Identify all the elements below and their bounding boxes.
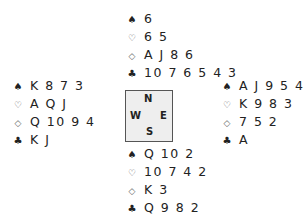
north-hand: ♠6 ♡6 5 ◇A J 8 6 ♣10 7 6 5 4 3 [126, 10, 238, 82]
west-spades: ♠K 8 7 3 [12, 77, 96, 95]
west-diamonds: ◇Q 10 9 4 [12, 113, 96, 131]
east-hearts: ♡K 9 8 3 [221, 95, 305, 113]
spade-icon: ♠ [126, 146, 138, 164]
north-spades: ♠6 [126, 10, 238, 28]
east-spades: ♠A J 9 5 4 [221, 77, 305, 95]
compass-box: N W E S [125, 90, 173, 142]
compass-east: E [160, 110, 167, 121]
club-icon: ♣ [12, 132, 24, 150]
heart-icon: ♡ [126, 164, 138, 182]
spade-icon: ♠ [12, 78, 24, 96]
club-icon: ♣ [126, 65, 138, 83]
west-hand: ♠K 8 7 3 ♡A Q J ◇Q 10 9 4 ♣K J [12, 77, 96, 149]
diamond-icon: ◇ [126, 47, 138, 65]
north-hearts: ♡6 5 [126, 28, 238, 46]
heart-icon: ♡ [221, 96, 233, 114]
spade-icon: ♠ [221, 78, 233, 96]
compass-south: S [146, 126, 153, 137]
south-spades: ♠Q 10 2 [126, 145, 208, 163]
compass-north: N [144, 93, 152, 104]
north-diamonds: ◇A J 8 6 [126, 46, 238, 64]
south-hand: ♠Q 10 2 ♡10 7 4 2 ◇K 3 ♣Q 9 8 2 [126, 145, 208, 217]
south-hearts: ♡10 7 4 2 [126, 163, 208, 181]
club-icon: ♣ [126, 200, 138, 218]
diamond-icon: ◇ [221, 114, 233, 132]
diamond-icon: ◇ [126, 182, 138, 200]
spade-icon: ♠ [126, 11, 138, 29]
east-clubs: ♣A [221, 131, 305, 149]
east-hand: ♠A J 9 5 4 ♡K 9 8 3 ◇7 5 2 ♣A [221, 77, 305, 149]
heart-icon: ♡ [126, 29, 138, 47]
west-hearts: ♡A Q J [12, 95, 96, 113]
west-clubs: ♣K J [12, 131, 96, 149]
south-diamonds: ◇K 3 [126, 181, 208, 199]
south-clubs: ♣Q 9 8 2 [126, 199, 208, 217]
heart-icon: ♡ [12, 96, 24, 114]
diamond-icon: ◇ [12, 114, 24, 132]
club-icon: ♣ [221, 132, 233, 150]
compass-west: W [130, 110, 141, 121]
east-diamonds: ◇7 5 2 [221, 113, 305, 131]
